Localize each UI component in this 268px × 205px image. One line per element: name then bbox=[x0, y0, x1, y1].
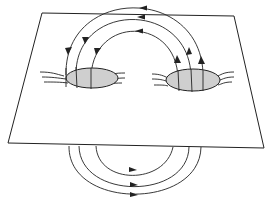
arrow-right-icon bbox=[129, 167, 137, 172]
lower-loop-middle bbox=[79, 146, 189, 187]
right-spot-ellipse bbox=[166, 69, 220, 91]
field-lines-diagram bbox=[0, 0, 268, 205]
arrow-left-icon bbox=[139, 6, 147, 11]
lower-loops bbox=[69, 146, 201, 197]
lower-loop-inner bbox=[96, 146, 173, 175]
plane-surface bbox=[8, 13, 264, 148]
left-spot-ellipse bbox=[66, 68, 118, 88]
